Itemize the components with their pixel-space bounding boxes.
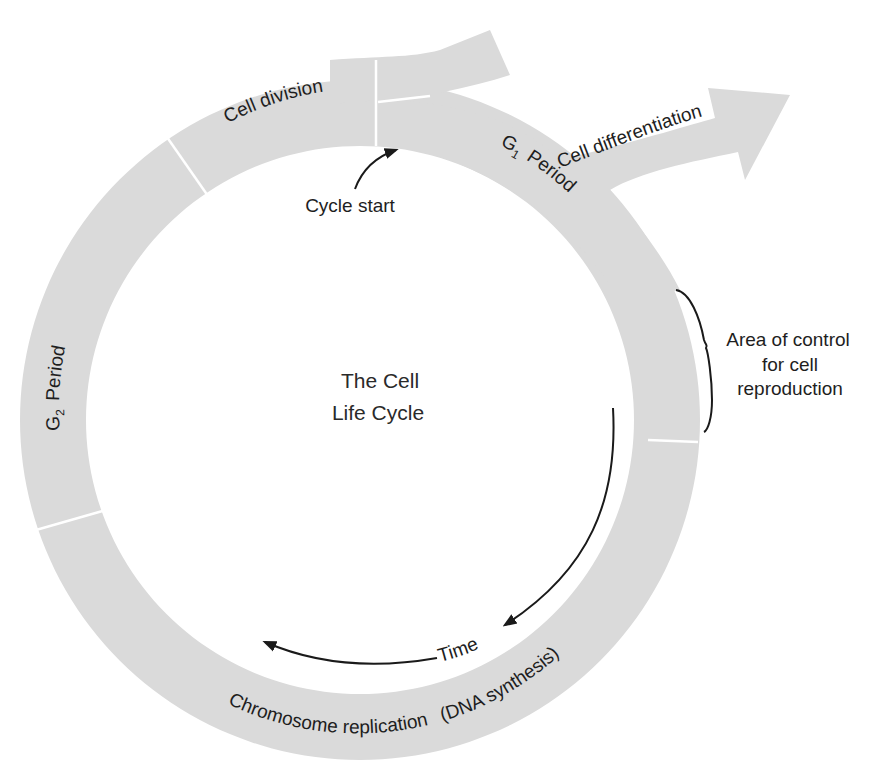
control-note-line2: for cell	[762, 354, 818, 375]
cell-cycle-diagram: Cell division G1Period G2Period Chromoso…	[0, 0, 886, 777]
cycle-start-arrow-icon	[355, 150, 396, 189]
center-title-line2: Life Cycle	[332, 401, 424, 424]
time-label: Time	[435, 633, 480, 666]
center-title-line1: The Cell	[341, 369, 419, 392]
g1-band	[380, 88, 790, 300]
cycle-start-label: Cycle start	[305, 195, 395, 216]
control-note-line1: Area of control	[726, 329, 850, 350]
time-arrow-back-icon	[265, 642, 437, 664]
control-note-line3: reproduction	[737, 378, 843, 399]
spiral-tail	[330, 30, 510, 104]
